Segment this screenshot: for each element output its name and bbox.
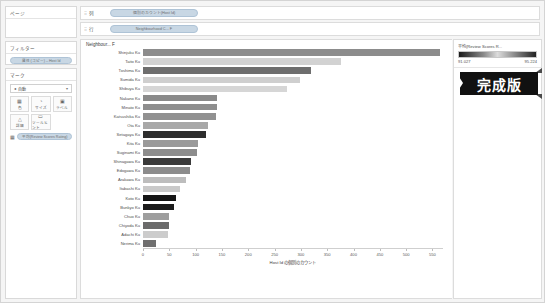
bar-category-label: Edogawa Ku bbox=[81, 168, 143, 173]
pages-panel-title: ページ bbox=[6, 7, 76, 18]
bar-row: Nerima Ku bbox=[81, 239, 452, 248]
marks-detail-button[interactable]: △ 詳細 bbox=[10, 114, 29, 130]
rows-shelf-label: ⠿ 行 bbox=[84, 26, 110, 32]
bar[interactable] bbox=[143, 77, 300, 84]
chevron-down-icon: ▾ bbox=[66, 86, 68, 91]
marks-color-label: 色 bbox=[18, 105, 22, 110]
mark-type-select[interactable]: ◂ 自動 ▾ bbox=[10, 84, 72, 93]
bar[interactable] bbox=[143, 95, 217, 102]
marks-encoding-pill[interactable]: 平均(Review Scores Rating) bbox=[17, 133, 72, 140]
marks-color-button[interactable]: ▦ 色 bbox=[10, 96, 29, 112]
bar-track bbox=[143, 112, 443, 121]
columns-shelf[interactable]: ⠿ 列 個別のカウント(Host Id) bbox=[80, 6, 540, 20]
detail-icon: △ bbox=[18, 117, 22, 122]
color-legend-gradient bbox=[458, 51, 537, 58]
bar[interactable] bbox=[143, 240, 156, 247]
bar-track bbox=[143, 203, 443, 212]
marks-panel-title: マーク bbox=[6, 69, 76, 80]
bar-row: Chiyoda Ku bbox=[81, 221, 452, 230]
marks-buttons-grid: ▦ 色 ◔ サイズ ▣ ラベル △ 詳細 bbox=[10, 96, 72, 130]
bar-row: Itabashi Ku bbox=[81, 184, 452, 193]
filters-panel: フィルター 属性 (コピー) – Host Id bbox=[5, 41, 77, 65]
ribbon-notch-icon bbox=[456, 72, 463, 94]
x-axis-tick bbox=[354, 249, 355, 251]
bar-category-label: Shibuya Ku bbox=[81, 86, 143, 91]
bar[interactable] bbox=[143, 231, 168, 238]
color-icon: ▦ bbox=[17, 99, 22, 104]
bar-category-label: Shinjuku Ku bbox=[81, 50, 143, 55]
filters-panel-title: フィルター bbox=[6, 42, 76, 53]
bar[interactable] bbox=[143, 104, 217, 111]
x-axis-tick-label: 200 bbox=[245, 252, 252, 257]
marks-label-button[interactable]: ▣ ラベル bbox=[53, 96, 72, 112]
pages-panel-dropzone[interactable] bbox=[6, 18, 76, 28]
marks-detail-label: 詳細 bbox=[16, 123, 24, 128]
x-axis-tick-label: 300 bbox=[297, 252, 304, 257]
x-axis-tick-label: 500 bbox=[403, 252, 410, 257]
bar[interactable] bbox=[143, 204, 174, 211]
bar-category-label: Toshima Ku bbox=[81, 68, 143, 73]
ribbon-body: 完成版 bbox=[460, 72, 538, 95]
bar-track bbox=[143, 212, 443, 221]
bar[interactable] bbox=[143, 158, 191, 165]
bar[interactable] bbox=[143, 49, 440, 56]
bar-category-label: Suginami Ku bbox=[81, 150, 143, 155]
row-field-header: Neighbour... F bbox=[81, 40, 452, 48]
color-legend-values: 91.027 95.224 bbox=[458, 59, 537, 64]
bar-track bbox=[143, 221, 443, 230]
bar-track bbox=[143, 103, 443, 112]
rows-pill[interactable]: Neighbourhood C... F bbox=[110, 25, 198, 33]
bar-category-label: Taito Ku bbox=[81, 59, 143, 64]
bar[interactable] bbox=[143, 86, 287, 93]
bar-track bbox=[143, 48, 443, 57]
bar[interactable] bbox=[143, 177, 186, 184]
bar-track bbox=[143, 175, 443, 184]
columns-pill[interactable]: 個別のカウント(Host Id) bbox=[110, 9, 198, 17]
bar-track bbox=[143, 184, 443, 193]
bar[interactable] bbox=[143, 186, 180, 193]
columns-shelf-label: ⠿ 列 bbox=[84, 10, 110, 16]
color-legend[interactable]: 平均(Review Scores R... 91.027 95.224 bbox=[454, 40, 541, 68]
filters-panel-dropzone[interactable]: 属性 (コピー) – Host Id bbox=[6, 53, 76, 67]
bar-category-label: Bunkyo Ku bbox=[81, 205, 143, 210]
marks-tooltip-button[interactable]: ▭ ツールヒント bbox=[31, 114, 50, 130]
bar-category-label: Setagaya Ku bbox=[81, 132, 143, 137]
x-axis-tick-label: 450 bbox=[376, 252, 383, 257]
bar-category-label: Itabashi Ku bbox=[81, 186, 143, 191]
shelves-area: ⠿ 列 個別のカウント(Host Id) ⠿ 行 Neighbourhood C… bbox=[80, 6, 540, 36]
bar[interactable] bbox=[143, 58, 341, 65]
x-axis-tick bbox=[432, 249, 433, 251]
bar[interactable] bbox=[143, 213, 169, 220]
bar-row: Arakawa Ku bbox=[81, 175, 452, 184]
label-icon: ▣ bbox=[60, 99, 65, 104]
bar-track bbox=[143, 93, 443, 102]
bar[interactable] bbox=[143, 140, 198, 147]
x-axis-tick-label: 150 bbox=[219, 252, 226, 257]
bar-category-label: Shinagawa Ku bbox=[81, 159, 143, 164]
bar-track bbox=[143, 75, 443, 84]
bar[interactable] bbox=[143, 195, 176, 202]
bar[interactable] bbox=[143, 222, 169, 229]
bar[interactable] bbox=[143, 113, 216, 120]
x-axis-tick-label: 50 bbox=[167, 252, 172, 257]
rows-shelf[interactable]: ⠿ 行 Neighbourhood C... F bbox=[80, 22, 540, 36]
bar-row: Taito Ku bbox=[81, 57, 452, 66]
bar-row: Koto Ku bbox=[81, 194, 452, 203]
bar-category-label: Ota Ku bbox=[81, 123, 143, 128]
color-legend-max: 95.224 bbox=[524, 59, 537, 64]
bar-row: Nakano Ku bbox=[81, 93, 452, 102]
bar[interactable] bbox=[143, 122, 208, 129]
left-sidebar: ページ フィルター 属性 (コピー) – Host Id マーク ◂ 自動 ▾ … bbox=[5, 6, 77, 299]
bar[interactable] bbox=[143, 131, 206, 138]
bar[interactable] bbox=[143, 149, 197, 156]
bar[interactable] bbox=[143, 167, 190, 174]
mark-type-icon: ◂ bbox=[14, 86, 16, 91]
x-axis-tick-label: 0 bbox=[142, 252, 144, 257]
marks-size-button[interactable]: ◔ サイズ bbox=[31, 96, 50, 112]
bar[interactable] bbox=[143, 67, 311, 74]
x-axis-title: Host Id の個別のカウント bbox=[143, 259, 443, 265]
filter-pill[interactable]: 属性 (コピー) – Host Id bbox=[10, 57, 72, 64]
bar-category-label: Kita Ku bbox=[81, 141, 143, 146]
x-axis-tick bbox=[222, 249, 223, 251]
bar-row: Minato Ku bbox=[81, 103, 452, 112]
